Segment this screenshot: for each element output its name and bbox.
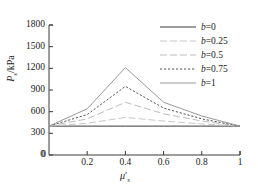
legend-item-label: b=0.25 xyxy=(201,36,228,46)
x-axis-label-subscript: s xyxy=(127,176,130,183)
legend-item[interactable]: b=0.5 xyxy=(160,48,223,61)
legend-item[interactable]: b=0.25 xyxy=(160,34,228,47)
legend-line-swatch xyxy=(160,79,196,87)
y-tick-label: 1800 xyxy=(8,20,45,30)
x-tick-label: 0.4 xyxy=(110,158,140,168)
legend-item[interactable]: b=0.75 xyxy=(160,62,228,75)
origin-tick-label: 0 xyxy=(32,150,46,160)
legend-line-swatch xyxy=(160,23,196,31)
legend-item-label: b=0 xyxy=(201,22,216,32)
legend-item-label: b=0.5 xyxy=(201,50,223,60)
legend-item[interactable]: b=1 xyxy=(160,76,216,89)
legend-item-label: b=1 xyxy=(201,78,216,88)
chart-figure: Ps/kPa μ′s 1800150012009006003000 0.20.4… xyxy=(0,0,258,193)
y-tick-label: 1500 xyxy=(8,42,45,52)
x-tick-label: 0.2 xyxy=(72,158,102,168)
x-tick-label: 0.6 xyxy=(149,158,179,168)
series-line-b-0-75 xyxy=(49,86,240,126)
y-axis-label-symbol: P xyxy=(5,76,16,82)
series-line-b-0-5 xyxy=(49,102,240,126)
x-tick-label: 1 xyxy=(225,158,255,168)
x-axis-label: μ′s xyxy=(40,170,210,183)
legend-item[interactable]: b=0 xyxy=(160,20,216,33)
x-tick-label: 0.8 xyxy=(187,158,217,168)
y-tick-label: 1200 xyxy=(8,63,45,73)
legend-line-swatch xyxy=(160,51,196,59)
legend-line-swatch xyxy=(160,65,196,73)
y-tick-label: 300 xyxy=(8,128,45,138)
y-tick-label: 900 xyxy=(8,85,45,95)
legend-line-swatch xyxy=(160,37,196,45)
y-tick-label: 600 xyxy=(8,107,45,117)
legend-item-label: b=0.75 xyxy=(201,64,228,74)
